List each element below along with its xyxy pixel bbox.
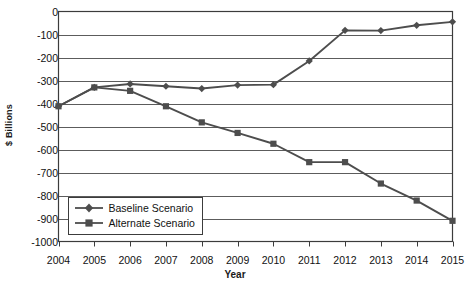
legend-item-alternate: Alternate Scenario [74, 216, 195, 231]
data-point-diamond-marker [449, 18, 456, 25]
data-point-diamond-marker [162, 83, 169, 90]
data-point-diamond-marker [413, 22, 420, 29]
data-series-layer [55, 18, 456, 224]
x-axis-tick-label: 2009 [226, 254, 249, 266]
data-point-diamond-marker [234, 82, 241, 89]
x-axis-tick-label: 2015 [441, 254, 464, 266]
legend-label-alternate: Alternate Scenario [109, 217, 195, 229]
data-point-diamond-marker [377, 27, 384, 34]
data-point-square-marker [449, 218, 455, 224]
legend: Baseline Scenario Alternate Scenario [68, 197, 203, 235]
x-axis-tick-label: 2014 [405, 254, 428, 266]
chart-container: $ Billions 0-100-200-300-400-500-600-700… [0, 0, 470, 287]
data-point-square-marker [163, 103, 169, 109]
x-axis-tick-label: 2013 [369, 254, 392, 266]
x-axis-tick-marks [60, 242, 454, 247]
x-axis-tick-label: 2005 [83, 254, 106, 266]
x-axis-tick-label: 2004 [47, 254, 70, 266]
x-axis-tick-label: 2008 [190, 254, 213, 266]
data-point-square-marker [199, 119, 205, 125]
data-point-diamond-marker [198, 85, 205, 92]
x-axis-title: Year [0, 269, 470, 280]
data-point-square-marker [306, 159, 312, 165]
x-axis-tick-label: 2011 [298, 254, 321, 266]
legend-label-baseline: Baseline Scenario [109, 202, 194, 214]
legend-swatch-diamond-icon [74, 202, 104, 214]
data-point-square-marker [234, 130, 240, 136]
legend-swatch-square-icon [74, 217, 104, 229]
data-point-square-marker [91, 84, 97, 90]
data-point-square-marker [127, 88, 133, 94]
x-axis-tick-label: 2006 [118, 254, 141, 266]
series-line [59, 22, 453, 106]
legend-item-baseline: Baseline Scenario [74, 201, 195, 216]
data-point-square-marker [270, 141, 276, 147]
x-axis-tick-label: 2010 [262, 254, 285, 266]
data-point-square-marker [414, 197, 420, 203]
data-point-square-marker [378, 180, 384, 186]
data-point-square-marker [55, 103, 61, 109]
gridlines [59, 36, 453, 220]
data-point-square-marker [342, 159, 348, 165]
plot-area [0, 0, 470, 287]
x-axis-tick-label: 2007 [154, 254, 177, 266]
x-axis-tick-label: 2012 [333, 254, 356, 266]
